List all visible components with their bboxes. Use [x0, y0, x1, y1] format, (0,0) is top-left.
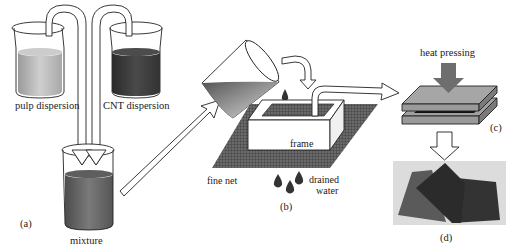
cnt-paper-process-diagram: pulp dispersion CNT dispersion mixture (…: [0, 0, 518, 248]
droplet-icon: [295, 171, 303, 185]
mixture-label: mixture: [70, 235, 103, 246]
arrow-to-pouring: [120, 100, 220, 196]
panel-d: (d): [393, 161, 506, 244]
frame-label: frame: [290, 138, 314, 149]
pour-direction-arrow: [282, 56, 316, 89]
drained-water-label-line1: drained: [309, 174, 339, 185]
panel-a-label: (a): [20, 218, 32, 230]
cnt-dispersion-label: CNT dispersion: [103, 100, 170, 111]
panel-b-label: (b): [280, 201, 293, 213]
arrow-to-product: [430, 132, 459, 160]
panel-d-label: (d): [440, 232, 453, 244]
cnt-beaker: [110, 22, 162, 98]
heat-pressing-label: heat pressing: [420, 47, 476, 58]
mixture-beaker: [62, 144, 114, 231]
drained-water-label-line2: water: [316, 185, 339, 196]
panel-c-label: (c): [490, 122, 502, 134]
droplet-icon: [286, 180, 294, 194]
droplet-icon: [274, 174, 282, 188]
panel-a: pulp dispersion CNT dispersion mixture (…: [12, 5, 170, 246]
pulp-dispersion-label: pulp dispersion: [15, 100, 80, 111]
droplet-icon: [282, 89, 288, 101]
panel-b: frame fine net drained water (b): [202, 36, 399, 213]
fine-net-label: fine net: [207, 175, 237, 186]
panel-c: heat pressing (c): [402, 47, 502, 160]
pulp-beaker: [12, 22, 64, 98]
